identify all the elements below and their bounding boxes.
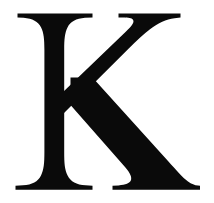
capital-k-glyph: K [0, 0, 214, 203]
letter-glyph-canvas: K K [0, 0, 214, 203]
